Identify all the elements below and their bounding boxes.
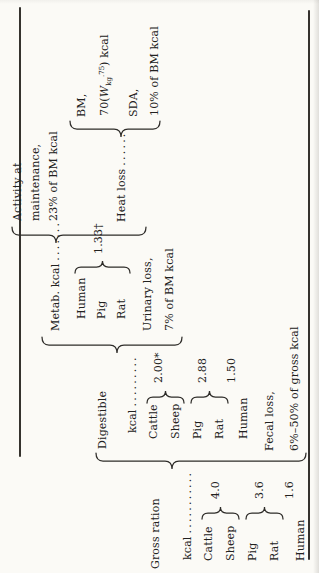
gross-value-cattle-sheep: 4.0 <box>209 481 222 499</box>
digestible-species-cattle: Cattle <box>147 404 160 439</box>
bm-formula-post: ) kcal <box>98 34 111 66</box>
brace-human-pig-rat-metab <box>75 261 130 273</box>
gross-species-cattle: Cattle <box>202 526 215 561</box>
urinary-loss-label: Urinary loss, <box>141 257 154 331</box>
brace-cattle-sheep-digestible <box>147 391 184 403</box>
brace-pig-rat-digestible <box>191 391 228 403</box>
gross-value-pig-rat: 3.6 <box>253 481 266 499</box>
scanned-page: Gross ration kcal........... Cattle Shee… <box>0 0 319 573</box>
digestible-leader-dots: ......... <box>126 355 139 406</box>
bm-formula-var: W <box>98 86 111 97</box>
heat-loss-leader: Heat loss...... <box>115 131 128 222</box>
fecal-loss-label: Fecal loss, <box>263 391 276 451</box>
brace-metab-to-activity-heat <box>12 227 146 243</box>
metab-value-human-pig-rat: 1.33† <box>92 223 105 254</box>
activity-line2: maintenance, <box>29 144 42 221</box>
digestible-value-pig-rat: 2.88 <box>196 358 209 383</box>
gross-ration-label: Gross ration <box>149 498 162 569</box>
bm-formula: 70(Wkg.75) kcal <box>96 34 116 116</box>
activity-line1: Activity at <box>11 162 24 221</box>
metab-species-rat: Rat <box>115 299 128 319</box>
gross-species-sheep: Sheep <box>224 526 237 561</box>
gross-species-pig: Pig <box>246 543 259 561</box>
metab-species-human: Human <box>75 277 88 319</box>
digestible-species-pig: Pig <box>191 421 204 439</box>
gross-leader-dots: ........... <box>181 471 194 534</box>
digestible-kcal-leader: kcal......... <box>126 355 139 433</box>
urinary-loss-value: 7% of BM kcal <box>163 248 176 331</box>
bm-label: BM, <box>75 94 88 117</box>
gross-value-human: 1.6 <box>283 481 296 499</box>
brace-cattle-sheep-gross <box>202 507 239 519</box>
digestible-value-cattle-sheep: 2.00* <box>152 352 165 383</box>
fecal-loss-value: 6%–50% of gross kcal <box>288 326 301 451</box>
page-top-shadow <box>0 0 319 4</box>
activity-line3: 23% of BM kcal <box>47 131 60 221</box>
sda-label: SDA, <box>127 89 140 117</box>
gross-species-rat: Rat <box>268 541 281 561</box>
digestible-kcal-text: kcal <box>126 409 139 433</box>
metab-species-pig: Pig <box>95 301 108 319</box>
metab-leader-dots: ....... <box>49 221 62 261</box>
digestible-value-human: 1.50 <box>225 358 238 383</box>
bm-formula-sub: kg <box>105 77 113 86</box>
bm-formula-pre: 70( <box>98 97 111 116</box>
brace-gross-to-digestible <box>96 453 306 469</box>
heat-loss-dots: ...... <box>115 131 128 165</box>
metab-kcal-text: Metab. kcal <box>49 264 62 331</box>
page-edge-shadow <box>313 0 319 573</box>
gross-kcal-leader: kcal........... <box>181 471 194 560</box>
gross-kcal-text: kcal <box>181 536 194 560</box>
heat-loss-text: Heat loss <box>115 169 128 222</box>
brace-pig-rat-gross <box>246 507 283 519</box>
energy-partition-diagram: Gross ration kcal........... Cattle Shee… <box>0 0 319 573</box>
sda-value: 10% of BM kcal <box>148 26 161 116</box>
digestible-species-rat: Rat <box>213 419 226 439</box>
digestible-label: Digestible <box>96 391 109 449</box>
gross-species-human: Human <box>294 519 307 561</box>
brace-digestible-to-metab <box>42 337 182 353</box>
metab-kcal-leader: Metab. kcal....... <box>49 221 62 331</box>
bm-formula-sup: .75 <box>98 66 106 77</box>
digestible-species-human: Human <box>237 397 250 439</box>
digestible-species-sheep: Sheep <box>169 404 182 439</box>
